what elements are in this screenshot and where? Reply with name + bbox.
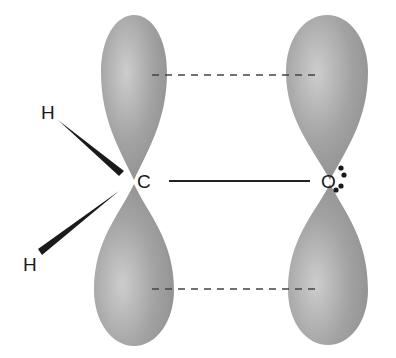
carbon-p-orbital [94,15,174,346]
carbon-lower-lobe [94,184,174,346]
oxygen-lower-lobe [288,184,368,345]
oxygen-upper-lobe [286,15,368,180]
oxygen-label: O [321,172,336,191]
diagram-canvas [0,0,396,358]
hydrogen-bottom-label: H [23,255,37,274]
pi-bond-diagram: C O H H [0,0,396,358]
hydrogen-top-label: H [41,103,55,122]
carbon-upper-lobe [101,15,167,180]
carbon-label: C [137,172,151,191]
